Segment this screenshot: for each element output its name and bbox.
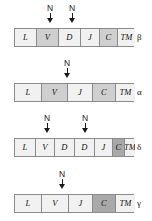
n-marker-label: N bbox=[66, 4, 78, 13]
n-marker-band-delta: NN bbox=[0, 114, 152, 138]
gene-segment: C bbox=[113, 139, 125, 156]
arrow-down-icon bbox=[47, 18, 53, 23]
arrow-down-icon bbox=[59, 184, 65, 189]
gene-segment: D bbox=[55, 139, 75, 156]
arrow-down-icon bbox=[64, 73, 70, 78]
gene-segment: J bbox=[81, 29, 100, 46]
tcr-gene-segment-diagram: NNLVDJCTMβNLVJCTMαNNLVDDJCTMδNLVJCTMγ bbox=[0, 0, 152, 221]
gene-segment: L bbox=[15, 195, 42, 212]
n-region-marker: N bbox=[56, 170, 68, 189]
gene-segment: L bbox=[15, 139, 36, 156]
gene-segment: TM bbox=[116, 195, 135, 212]
locus-row-delta: NNLVDDJCTMδ bbox=[0, 114, 152, 160]
gene-segment: L bbox=[15, 84, 42, 101]
segment-bar-delta: LVDDJCTM bbox=[14, 138, 134, 157]
gene-segment: V bbox=[36, 139, 55, 156]
n-region-marker: N bbox=[44, 4, 56, 23]
gene-segment: J bbox=[95, 139, 113, 156]
chain-label-beta: β bbox=[137, 28, 142, 47]
gene-segment: L bbox=[15, 29, 37, 46]
n-region-marker: N bbox=[79, 114, 91, 133]
gene-segment: V bbox=[37, 29, 59, 46]
n-marker-band-gamma: N bbox=[0, 170, 152, 194]
n-marker-band-beta: NN bbox=[0, 4, 152, 28]
gene-segment: D bbox=[59, 29, 81, 46]
n-marker-band-alpha: N bbox=[0, 59, 152, 83]
arrow-down-icon bbox=[44, 128, 50, 133]
gene-segment: TM bbox=[116, 84, 135, 101]
segment-bar-beta: LVDJCTM bbox=[14, 28, 134, 47]
gene-segment: V bbox=[42, 84, 68, 101]
gene-segment: C bbox=[93, 84, 116, 101]
chain-label-alpha: α bbox=[137, 83, 142, 102]
n-marker-label: N bbox=[79, 114, 91, 123]
n-marker-label: N bbox=[61, 59, 73, 68]
locus-row-beta: NNLVDJCTMβ bbox=[0, 4, 152, 50]
gene-segment: TM bbox=[118, 29, 135, 46]
n-marker-label: N bbox=[44, 4, 56, 13]
segment-bar-gamma: LVJCTM bbox=[14, 194, 134, 213]
gene-segment: D bbox=[75, 139, 95, 156]
n-region-marker: N bbox=[41, 114, 53, 133]
gene-segment: V bbox=[42, 195, 69, 212]
arrow-down-icon bbox=[82, 128, 88, 133]
gene-segment: C bbox=[93, 195, 116, 212]
segment-bar-alpha: LVJCTM bbox=[14, 83, 134, 102]
chain-label-gamma: γ bbox=[137, 194, 141, 213]
n-marker-label: N bbox=[56, 170, 68, 179]
locus-row-alpha: NLVJCTMα bbox=[0, 59, 152, 105]
chain-label-delta: δ bbox=[137, 138, 141, 157]
gene-segment: J bbox=[68, 84, 93, 101]
gene-segment: TM bbox=[125, 139, 135, 156]
n-region-marker: N bbox=[61, 59, 73, 78]
arrow-down-icon bbox=[69, 18, 75, 23]
n-region-marker: N bbox=[66, 4, 78, 23]
locus-row-gamma: NLVJCTMγ bbox=[0, 170, 152, 216]
gene-segment: C bbox=[100, 29, 118, 46]
n-marker-label: N bbox=[41, 114, 53, 123]
gene-segment: J bbox=[69, 195, 93, 212]
